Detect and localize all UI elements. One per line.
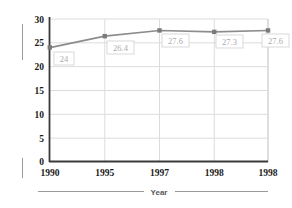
y-tick-label: 5 [39, 134, 44, 144]
x-tick-labels: 1990 1995 1997 1998 1998 [41, 168, 278, 178]
data-label-text: 27.6 [168, 36, 183, 46]
x-tick-label: 1995 [95, 168, 114, 178]
x-tick-label: 1990 [41, 168, 60, 178]
data-label-text: 27.3 [222, 37, 237, 47]
data-label: 27.3 [216, 35, 243, 48]
data-point-marker [157, 28, 161, 32]
x-tick-label: 1998 [205, 168, 224, 178]
data-label: 27.6 [162, 34, 189, 47]
data-label: 27.6 [262, 34, 289, 47]
y-tick-label: 15 [35, 86, 45, 96]
data-point-marker [48, 45, 52, 49]
x-axis-title-group: Year [38, 188, 268, 197]
y-tick-label: 30 [35, 15, 45, 25]
y-tick-label: 0 [39, 157, 44, 167]
y-tick-labels: 30 25 20 15 10 5 0 [35, 15, 45, 168]
y-tick-label: 25 [35, 38, 45, 48]
chart-canvas: 30 25 20 15 10 5 0 1990 1995 1997 1998 1… [0, 0, 292, 208]
data-label: 24 [54, 52, 74, 65]
data-label-text: 24 [60, 54, 69, 64]
data-label-text: 26.4 [113, 43, 129, 53]
x-axis-title: Year [151, 188, 168, 197]
data-label: 26.4 [107, 41, 134, 54]
y-tick-label: 20 [35, 62, 45, 72]
data-point-marker [212, 30, 216, 34]
x-tick-label: 1998 [259, 168, 278, 178]
line-chart: 30 25 20 15 10 5 0 1990 1995 1997 1998 1… [0, 0, 292, 208]
data-point-marker [266, 28, 270, 32]
y-tick-label: 10 [35, 110, 45, 120]
data-point-marker [103, 34, 107, 38]
data-label-text: 27.6 [268, 36, 283, 46]
y-axis-title-group: % One Parent Families [0, 24, 23, 178]
x-tick-label: 1997 [150, 168, 169, 178]
